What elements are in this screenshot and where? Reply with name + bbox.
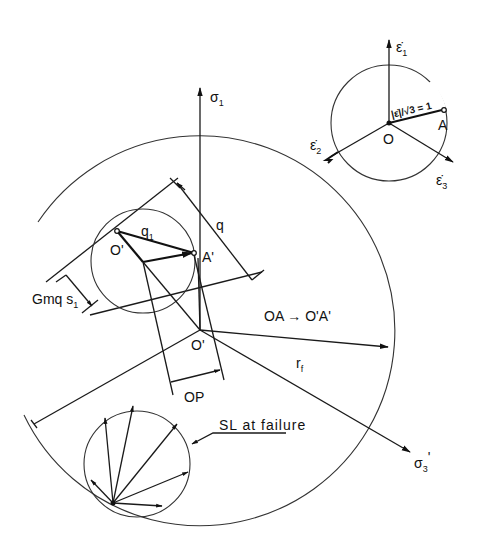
rf-radius-arrow	[200, 330, 388, 347]
e3-label: ε̇3	[436, 172, 447, 191]
inner-to-center-line	[143, 262, 200, 330]
e1-label: ε̇1	[396, 39, 407, 58]
o-prime-small-label: O'	[110, 242, 124, 258]
q1-vector	[117, 231, 194, 253]
e2-arrowhead	[326, 152, 338, 163]
gmqs1-label: Gmq s1	[32, 291, 78, 310]
sigma3-prime-label: σ3'	[414, 449, 430, 474]
diagram-canvas: ε̇1 ε̇2 ε̇3 O A |ε̇|/√3 = 1	[0, 0, 483, 557]
q-dimension-line	[177, 183, 252, 280]
e2-axis	[330, 123, 389, 157]
op-left-extension	[143, 262, 173, 395]
q-band-upper-line	[46, 178, 178, 282]
mapping-label: OA → O'A'	[264, 308, 331, 324]
e2-label: ε̇2	[310, 137, 321, 156]
rf-label: rf	[296, 355, 304, 374]
q-label: q	[216, 217, 224, 233]
point-a-marker	[442, 108, 447, 113]
sl-leader-line	[192, 433, 286, 444]
q-dim-ext-bottom	[252, 270, 264, 280]
inner-to-aprime-vector	[143, 253, 192, 262]
sigma3-prime-axis	[200, 330, 410, 452]
gmqs1-ext-line	[56, 275, 66, 282]
o-prime-center-label: O'	[191, 337, 205, 353]
op-label: OP	[184, 389, 204, 405]
sector-boundary-tick	[31, 420, 37, 428]
sl-at-failure-label: SL at failure	[219, 417, 306, 433]
a-prime-marker	[192, 251, 197, 256]
stress-construction: σ1 σ3' q q1 O' A' O' Gmq s1 OA → O'A' rf…	[24, 88, 430, 526]
q-band-lower-line	[90, 272, 262, 315]
strain-rate-inset: ε̇1 ε̇2 ε̇3 O A |ε̇|/√3 = 1	[310, 39, 453, 191]
sector-boundary-line	[34, 330, 200, 424]
sigma1-label: σ1	[210, 89, 224, 108]
op-dimension-arrow	[171, 370, 220, 382]
a-prime-label: A'	[202, 249, 214, 265]
sl-vectors	[91, 406, 188, 506]
gmqs1-ext-line-2	[82, 300, 98, 313]
o-prime-small-marker	[115, 229, 120, 234]
point-a-label: A	[438, 117, 448, 133]
origin-o-label: O	[383, 131, 394, 147]
origin-o-marker	[387, 121, 392, 126]
